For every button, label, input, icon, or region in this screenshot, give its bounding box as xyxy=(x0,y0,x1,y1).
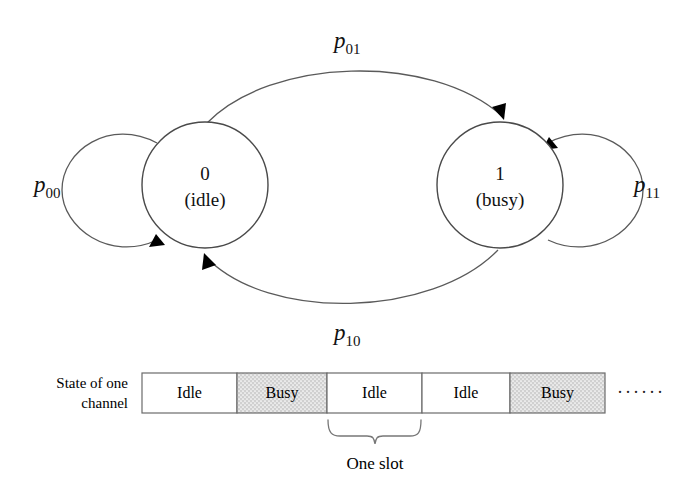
markov-chain-figure: p00 p11 p01 p10 0 (idle) 1 (busy) xyxy=(0,0,697,504)
p00-label: p00 xyxy=(32,172,61,201)
state-node-idle[interactable]: 0 (idle) xyxy=(142,122,268,248)
p00-subscript: 00 xyxy=(46,185,61,201)
transition-p01: p01 xyxy=(207,28,506,123)
state-busy-number: 1 xyxy=(495,163,505,184)
state-busy-circle[interactable] xyxy=(437,122,563,248)
p10-arrowhead xyxy=(202,253,216,270)
timeline-caption-line2: channel xyxy=(81,395,128,411)
p01-variable: p xyxy=(332,28,346,53)
state-idle-number: 0 xyxy=(200,163,210,184)
p01-arc-path xyxy=(207,71,502,123)
p01-label: p01 xyxy=(332,28,361,57)
timeline-cell-label-5: Busy xyxy=(541,384,574,402)
timeline-cell[interactable]: Idle xyxy=(422,373,510,413)
state-idle-circle[interactable] xyxy=(142,122,268,248)
state-idle-name: (idle) xyxy=(184,189,225,211)
state-node-busy[interactable]: 1 (busy) xyxy=(437,122,563,248)
transition-p10: p10 xyxy=(202,250,498,349)
p10-arc-path xyxy=(206,250,498,303)
timeline-cell[interactable]: Idle xyxy=(327,373,422,413)
timeline-cell-label-4: Idle xyxy=(454,384,479,401)
timeline-caption-line1: State of one xyxy=(56,375,128,391)
p00-arrowhead xyxy=(149,234,165,247)
p10-label: p10 xyxy=(332,320,361,349)
p11-subscript: 11 xyxy=(646,185,660,201)
timeline-cell[interactable]: Busy xyxy=(510,373,605,413)
state-busy-name: (busy) xyxy=(476,189,525,211)
p01-subscript: 01 xyxy=(346,41,361,57)
timeline-bar: Idle Busy Idle Idle Busy ······ xyxy=(142,373,665,413)
p11-variable: p xyxy=(632,172,646,197)
p10-subscript: 10 xyxy=(346,333,361,349)
p10-variable: p xyxy=(332,320,346,345)
timeline-cell[interactable]: Idle xyxy=(142,373,237,413)
one-slot-label: One slot xyxy=(346,454,403,473)
timeline-cell-label-1: Idle xyxy=(177,384,202,401)
p01-arrowhead xyxy=(492,103,506,120)
one-slot-brace xyxy=(328,420,421,444)
p11-label: p11 xyxy=(632,172,660,201)
one-slot-annotation: One slot xyxy=(328,420,421,473)
timeline-cell-label-3: Idle xyxy=(362,384,387,401)
timeline-cell[interactable]: Busy xyxy=(237,373,327,413)
p00-variable: p xyxy=(32,172,46,197)
timeline-ellipsis: ······ xyxy=(617,382,665,402)
timeline-cell-label-2: Busy xyxy=(266,384,299,402)
timeline-caption: State of one channel xyxy=(56,375,128,411)
